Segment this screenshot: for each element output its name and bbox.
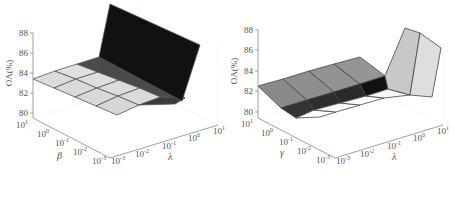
beta-tick-m3: 10-3 — [92, 155, 106, 166]
lambda-tick-0: 100 — [188, 132, 200, 143]
surface — [33, 4, 200, 115]
gamma-tick-0: 100 — [261, 127, 273, 138]
z-axis: 88 86 84 82 80 OA(%) — [229, 25, 258, 118]
lambda-axis-label: λ — [391, 151, 397, 162]
z-tick-84: 84 — [19, 68, 29, 78]
lambda-axis-label: λ — [167, 151, 173, 162]
lambda-tick-1: 101 — [437, 125, 449, 136]
z-tick-86: 86 — [19, 48, 29, 58]
lambda-tick-m1: 10-1 — [162, 140, 176, 151]
z-tick-80: 80 — [244, 107, 254, 117]
beta-axis-label: β — [56, 150, 62, 161]
beta-tick-m2: 10-2 — [73, 146, 87, 157]
z-tick-88: 88 — [244, 25, 254, 35]
chart-right: 88 86 84 82 80 OA(%) 101 100 10-1 10-2 1… — [229, 25, 449, 166]
gamma-tick-m3: 10-3 — [316, 154, 330, 165]
y-axis-gamma: 101 100 10-1 10-2 10-3 γ — [241, 118, 335, 165]
x-axis-lambda: 10-3 10-2 10-1 100 101 λ — [110, 125, 225, 166]
z-axis-label: OA(%) — [4, 60, 14, 87]
z-tick-84: 84 — [244, 66, 254, 76]
beta-tick-0: 100 — [37, 128, 49, 139]
lambda-tick-1: 101 — [213, 125, 225, 136]
beta-tick-m1: 10-1 — [55, 137, 69, 148]
chart-left: 88 86 84 82 80 OA(%) 101 100 10-1 10-2 1… — [4, 4, 225, 166]
lambda-tick-m1: 10-1 — [387, 140, 401, 151]
gamma-tick-m1: 10-1 — [279, 136, 293, 147]
lambda-tick-m3: 10-3 — [111, 155, 125, 166]
figure: 88 86 84 82 80 OA(%) 101 100 10-1 10-2 1… — [0, 0, 455, 215]
z-tick-86: 86 — [244, 45, 254, 55]
gamma-tick-m2: 10-2 — [297, 145, 311, 156]
z-axis-label: OA(%) — [229, 58, 239, 85]
z-tick-82: 82 — [244, 86, 253, 96]
lambda-tick-0: 100 — [413, 132, 425, 143]
y-axis-beta: 101 100 10-1 10-2 10-3 β — [16, 118, 110, 166]
surface — [258, 28, 441, 118]
z-tick-88: 88 — [19, 28, 29, 38]
lambda-tick-m2: 10-2 — [360, 148, 374, 159]
lambda-tick-m2: 10-2 — [135, 148, 149, 159]
z-tick-82: 82 — [19, 88, 28, 98]
gamma-tick-1: 101 — [241, 118, 253, 129]
z-tick-80: 80 — [19, 108, 29, 118]
lambda-tick-m3: 10-3 — [336, 155, 350, 166]
gamma-axis-label: γ — [280, 147, 285, 158]
beta-tick-1: 101 — [16, 119, 28, 130]
z-axis: 88 86 84 82 80 OA(%) — [4, 28, 33, 118]
x-axis-lambda: 10-3 10-2 10-1 100 101 λ — [335, 125, 449, 166]
